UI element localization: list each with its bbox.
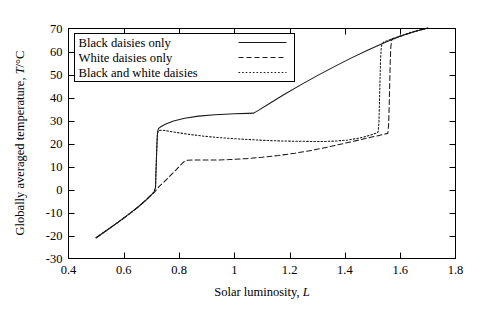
y-axis-title: Globally averaged temperature, T/°C xyxy=(13,51,27,236)
legend-label-2: Black and white daisies xyxy=(79,66,198,80)
x-tick-label: 0.6 xyxy=(116,263,132,277)
y-tick-label: 50 xyxy=(50,68,63,82)
y-tick-label: -30 xyxy=(46,252,63,266)
y-tick-label: -10 xyxy=(46,206,63,220)
x-axis-title: Solar luminosity, L xyxy=(214,285,309,299)
legend-label-1: White daisies only xyxy=(79,51,173,65)
x-tick-label: 1.8 xyxy=(448,263,464,277)
x-tick-label: 1.6 xyxy=(392,263,408,277)
x-tick-label: 0.4 xyxy=(61,263,77,277)
daisyworld-chart-figure: 0.40.60.811.21.41.61.8 -30-20-1001020304… xyxy=(0,0,477,309)
chart-svg: 0.40.60.811.21.41.61.8 -30-20-1001020304… xyxy=(0,0,477,309)
x-tick-label: 1.2 xyxy=(282,263,298,277)
chart-legend: Black daisies onlyWhite daisies onlyBlac… xyxy=(75,34,295,82)
y-tick-label: 10 xyxy=(50,160,63,174)
y-tick-label: 30 xyxy=(50,114,63,128)
y-axis-tick-labels: -30-20-10010203040506070 xyxy=(46,22,63,266)
y-tick-label: 60 xyxy=(50,45,63,59)
x-axis-tick-labels: 0.40.60.811.21.41.61.8 xyxy=(61,263,464,277)
y-tick-label: 70 xyxy=(50,22,63,36)
y-tick-label: 20 xyxy=(50,137,63,151)
y-tick-label: -20 xyxy=(46,229,63,243)
legend-label-0: Black daisies only xyxy=(79,36,172,50)
x-tick-label: 0.8 xyxy=(171,263,187,277)
x-tick-label: 1 xyxy=(231,263,237,277)
y-tick-label: 40 xyxy=(50,91,63,105)
y-tick-label: 0 xyxy=(56,183,62,197)
x-tick-label: 1.4 xyxy=(337,263,353,277)
